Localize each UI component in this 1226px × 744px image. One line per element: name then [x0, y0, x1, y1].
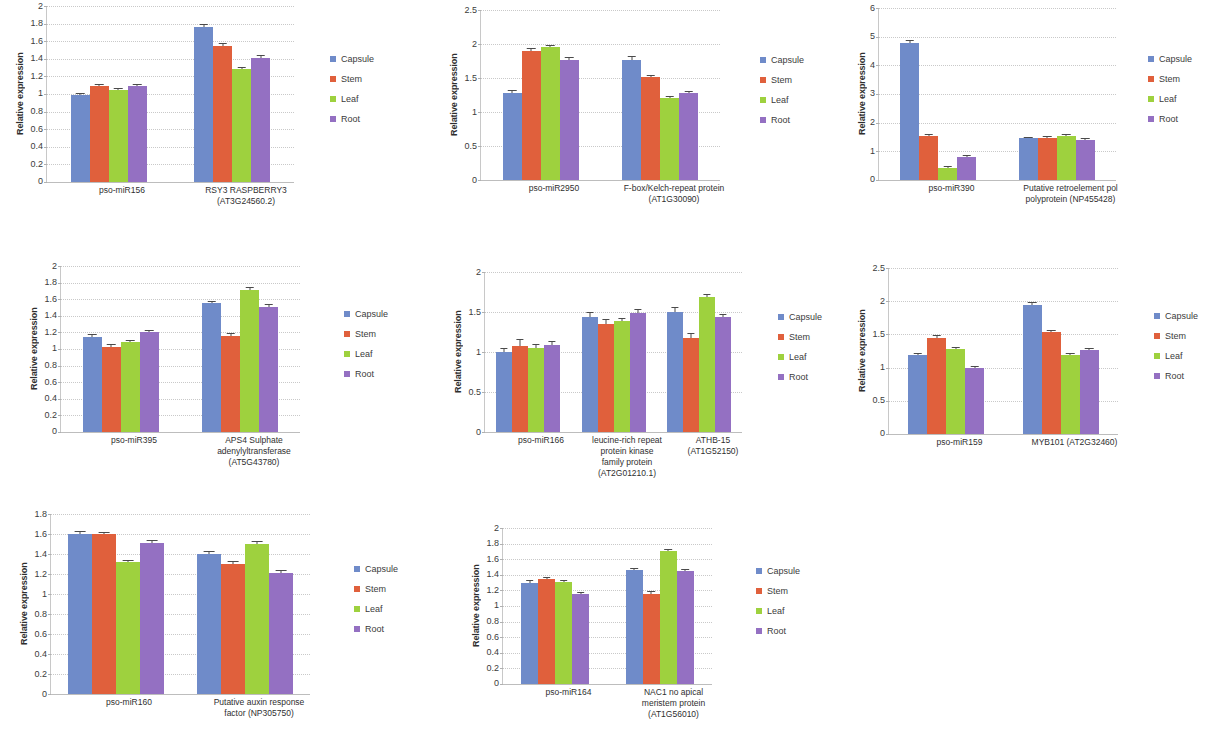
legend-item-stem[interactable]: Stem [756, 586, 800, 596]
bar-root[interactable] [572, 594, 589, 684]
bar-stem[interactable] [102, 347, 121, 432]
legend-item-capsule[interactable]: Capsule [756, 566, 800, 576]
legend-item-stem[interactable]: Stem [1154, 331, 1198, 341]
legend-item-capsule[interactable]: Capsule [354, 564, 398, 574]
legend-item-stem[interactable]: Stem [760, 75, 804, 85]
legend-item-stem[interactable]: Stem [330, 74, 374, 84]
bar-stem[interactable] [538, 579, 555, 684]
bar-leaf[interactable] [699, 297, 715, 432]
bar-leaf[interactable] [614, 321, 630, 432]
bar-stem[interactable] [598, 324, 614, 432]
bar-stem[interactable] [221, 564, 245, 694]
bar-stem[interactable] [683, 338, 699, 432]
bar-leaf[interactable] [528, 348, 544, 432]
bar-stem[interactable] [512, 346, 528, 432]
legend-item-stem[interactable]: Stem [778, 332, 822, 342]
bar-capsule[interactable] [582, 317, 598, 432]
legend-item-capsule[interactable]: Capsule [344, 309, 388, 319]
bar-capsule[interactable] [667, 312, 683, 432]
legend-item-root[interactable]: Root [1154, 371, 1198, 381]
legend-item-root[interactable]: Root [756, 626, 800, 636]
legend-item-stem[interactable]: Stem [344, 329, 388, 339]
bar-leaf[interactable] [555, 582, 572, 684]
bar-root[interactable] [560, 60, 579, 180]
bar-root[interactable] [259, 307, 278, 432]
bar-stem[interactable] [1042, 332, 1061, 434]
bar-stem[interactable] [221, 336, 240, 432]
bar-stem[interactable] [92, 534, 116, 694]
bar-root[interactable] [140, 543, 164, 694]
legend-item-root[interactable]: Root [760, 115, 804, 125]
bar-leaf[interactable] [1057, 136, 1076, 180]
bar-capsule[interactable] [496, 352, 512, 432]
bar-stem[interactable] [1038, 138, 1057, 180]
bar-capsule[interactable] [1023, 305, 1042, 434]
bar-leaf[interactable] [1061, 355, 1080, 434]
legend-item-leaf[interactable]: Leaf [1154, 351, 1198, 361]
bar-leaf[interactable] [245, 544, 269, 694]
bar-leaf[interactable] [660, 551, 677, 684]
bar-root[interactable] [957, 157, 976, 181]
bar-root[interactable] [630, 313, 646, 432]
bar-capsule[interactable] [202, 303, 221, 432]
legend-item-capsule[interactable]: Capsule [330, 54, 374, 64]
bar-root[interactable] [715, 317, 731, 432]
bar-stem[interactable] [213, 46, 232, 182]
legend-item-root[interactable]: Root [1148, 114, 1192, 124]
bar-leaf[interactable] [541, 47, 560, 180]
legend-item-leaf[interactable]: Leaf [354, 604, 398, 614]
bar-leaf[interactable] [232, 69, 251, 182]
legend-item-stem[interactable]: Stem [1148, 74, 1192, 84]
legend-item-leaf[interactable]: Leaf [778, 352, 822, 362]
bar-leaf[interactable] [116, 562, 140, 694]
legend-item-leaf[interactable]: Leaf [756, 606, 800, 616]
bar-root[interactable] [965, 368, 984, 434]
bar-capsule[interactable] [71, 95, 90, 182]
bar-stem[interactable] [641, 77, 660, 180]
bar-capsule[interactable] [626, 570, 643, 684]
bar-leaf[interactable] [109, 90, 128, 182]
bar-root[interactable] [269, 573, 293, 694]
legend-item-leaf[interactable]: Leaf [344, 349, 388, 359]
bar-leaf[interactable] [121, 342, 140, 432]
bar-capsule[interactable] [521, 583, 538, 684]
bar-root[interactable] [1076, 140, 1095, 180]
bar-capsule[interactable] [194, 27, 213, 182]
bar-leaf[interactable] [946, 349, 965, 434]
bar-leaf[interactable] [938, 168, 957, 180]
bar-root[interactable] [251, 58, 270, 182]
legend-item-leaf[interactable]: Leaf [1148, 94, 1192, 104]
bar-capsule[interactable] [68, 534, 92, 694]
legend-item-root[interactable]: Root [354, 624, 398, 634]
bar-stem[interactable] [927, 338, 946, 434]
bar-capsule[interactable] [908, 355, 927, 434]
legend-item-root[interactable]: Root [344, 369, 388, 379]
legend-item-capsule[interactable]: Capsule [760, 55, 804, 65]
legend-item-leaf[interactable]: Leaf [330, 94, 374, 104]
bar-capsule[interactable] [503, 93, 522, 180]
legend-item-capsule[interactable]: Capsule [778, 312, 822, 322]
bar-root[interactable] [140, 332, 159, 432]
bar-root[interactable] [679, 93, 698, 180]
bar-capsule[interactable] [83, 337, 102, 432]
bar-stem[interactable] [643, 594, 660, 684]
bar-stem[interactable] [90, 86, 109, 182]
bar-root[interactable] [677, 571, 694, 684]
legend-item-root[interactable]: Root [778, 372, 822, 382]
bar-stem[interactable] [919, 136, 938, 180]
legend-item-stem[interactable]: Stem [354, 584, 398, 594]
legend-item-capsule[interactable]: Capsule [1148, 54, 1192, 64]
bar-capsule[interactable] [900, 43, 919, 180]
legend-item-capsule[interactable]: Capsule [1154, 311, 1198, 321]
bar-root[interactable] [544, 345, 560, 432]
bar-leaf[interactable] [660, 98, 679, 180]
bar-stem[interactable] [522, 51, 541, 180]
bar-leaf[interactable] [240, 290, 259, 432]
legend-item-leaf[interactable]: Leaf [760, 95, 804, 105]
bar-root[interactable] [128, 86, 147, 182]
bar-capsule[interactable] [1019, 138, 1038, 180]
legend-item-root[interactable]: Root [330, 114, 374, 124]
bar-root[interactable] [1080, 350, 1099, 434]
bar-capsule[interactable] [622, 60, 641, 180]
bar-capsule[interactable] [197, 554, 221, 694]
